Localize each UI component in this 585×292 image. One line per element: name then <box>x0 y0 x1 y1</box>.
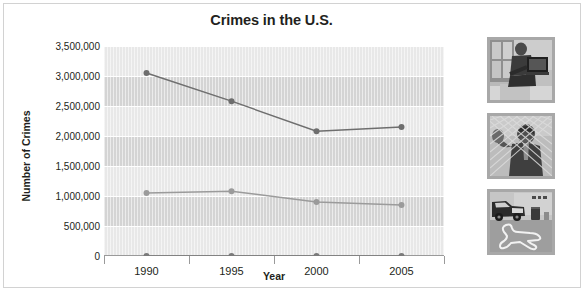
data-point-marker <box>229 98 235 104</box>
photo-burglar-with-television <box>487 37 555 103</box>
x-axis-tick-mark <box>189 256 190 264</box>
x-axis-tick-mark <box>274 256 275 264</box>
data-point-marker <box>399 202 405 208</box>
y-axis-tick-label: 3,000,000 <box>14 71 100 82</box>
photo-person-behind-chain-link-fence <box>487 113 555 179</box>
data-point-marker <box>314 128 320 134</box>
data-point-marker <box>229 188 235 194</box>
photo-column <box>487 37 561 259</box>
y-axis-tick-label: 1,500,000 <box>14 161 100 172</box>
data-point-marker <box>314 199 320 205</box>
y-axis-tick-label: 2,500,000 <box>14 101 100 112</box>
data-point-marker <box>144 70 150 76</box>
data-point-marker <box>399 124 405 130</box>
y-axis-tick-label: 2,000,000 <box>14 131 100 142</box>
x-axis-tick-mark <box>444 256 445 264</box>
series-line <box>147 73 402 131</box>
x-axis-tick-mark <box>104 256 105 264</box>
y-axis-tick-label: 500,000 <box>14 221 100 232</box>
photo-person-behind-chain-link-fence-image <box>490 116 552 176</box>
photo-burglar-with-television-image <box>490 40 552 100</box>
series-line <box>147 191 402 205</box>
y-axis-tick-label: 3,500,000 <box>14 41 100 52</box>
x-axis-tick-mark <box>359 256 360 264</box>
chart-block: Crimes in the U.S. Number of Crimes 0500… <box>4 4 474 288</box>
chart-title: Crimes in the U.S. <box>99 12 444 28</box>
y-axis-tick-label: 1,000,000 <box>14 191 100 202</box>
chart-page: Crimes in the U.S. Number of Crimes 0500… <box>0 0 585 292</box>
plot-area <box>104 46 444 256</box>
photo-crime-scene-body-outline-image <box>490 192 552 252</box>
y-axis-tick-label: 0 <box>14 251 100 262</box>
photo-crime-scene-body-outline <box>487 189 555 255</box>
y-axis-tick-labels: 0500,0001,000,0001,500,0002,000,0002,500… <box>8 46 100 256</box>
data-point-marker <box>144 190 150 196</box>
x-axis-title: Year <box>104 270 444 282</box>
series-layer <box>104 46 444 256</box>
